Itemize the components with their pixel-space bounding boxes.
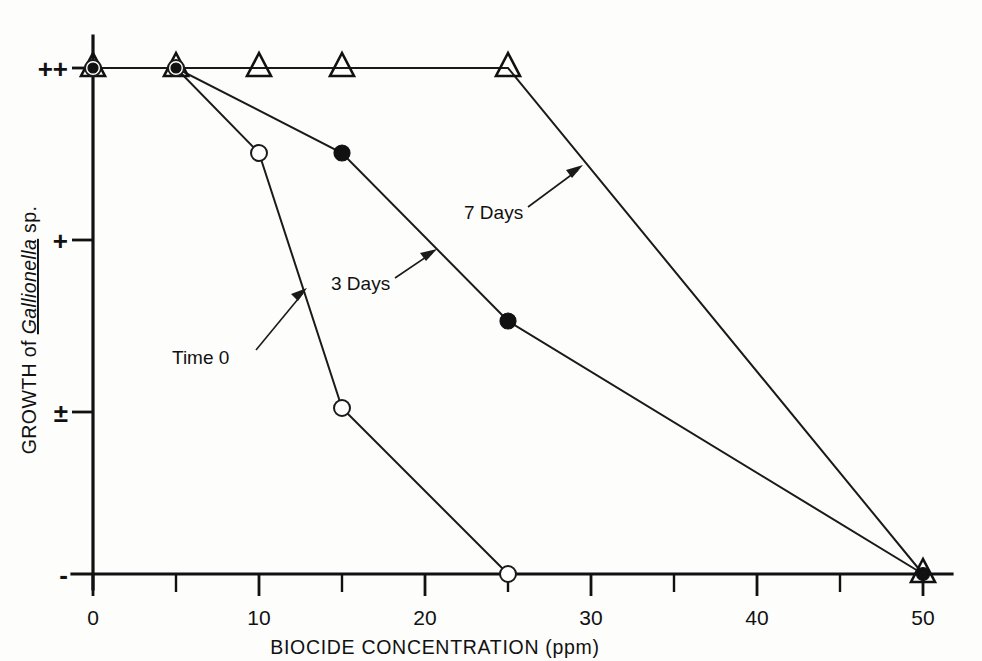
y-axis-title-prefix: GROWTH of [18, 334, 40, 454]
growth-vs-biocide-chart: 0 10 20 30 40 50 BIOCIDE CONCENTRATION (… [0, 0, 982, 661]
marker-cluster-dot-50ppm [918, 569, 928, 579]
marker-triangle-25ppm [496, 53, 520, 76]
y-tick-label-minus: - [59, 560, 68, 590]
marker-triangle-15ppm [330, 53, 354, 76]
y-tick-label-plusminus: ± [54, 398, 68, 428]
marker-open-circle-15ppm [334, 400, 350, 416]
y-axis-tick-labels: ++ + ± - [38, 54, 68, 590]
marker-cluster-dot-0ppm [88, 63, 98, 73]
x-axis-tick-labels: 0 10 20 30 40 50 [87, 606, 935, 629]
annotation-7-days: 7 Days [464, 165, 583, 223]
marker-filled-circle-25ppm [500, 313, 516, 329]
annotation-time-0-label: Time 0 [172, 347, 229, 368]
x-tick-label-40: 40 [745, 606, 768, 629]
annotation-7-days-label: 7 Days [464, 202, 523, 223]
marker-triangle-10ppm [247, 53, 271, 76]
annotation-3-days-label: 3 Days [331, 273, 390, 294]
annotation-3-days: 3 Days [331, 249, 437, 294]
series-markers-3-days [87, 62, 930, 581]
y-tick-label-plus: + [53, 226, 68, 256]
axes-group [72, 36, 952, 589]
x-tick-label-0: 0 [87, 606, 99, 629]
marker-open-circle-10ppm [251, 145, 267, 161]
series-markers-time-0 [85, 60, 516, 582]
series-line-time-0 [93, 68, 508, 574]
x-tick-label-10: 10 [247, 606, 270, 629]
marker-cluster-dot-5ppm [171, 63, 181, 73]
figure-container: 0 10 20 30 40 50 BIOCIDE CONCENTRATION (… [0, 0, 982, 661]
x-tick-label-50: 50 [911, 606, 934, 629]
annotation-time-0: Time 0 [172, 288, 307, 368]
x-tick-label-20: 20 [413, 606, 436, 629]
y-axis-title-group: GROWTH of Gallionella sp. [18, 206, 40, 454]
x-axis-title: BIOCIDE CONCENTRATION (ppm) [270, 636, 599, 658]
y-axis-title-genus: Gallionella [18, 239, 40, 334]
marker-open-circle-25ppm [500, 566, 516, 582]
y-tick-label-plusplus: ++ [38, 54, 68, 84]
y-axis-title: GROWTH of Gallionella sp. [18, 206, 40, 454]
y-axis-title-suffix: sp. [18, 206, 40, 239]
y-axis-ticks [72, 68, 93, 412]
x-tick-label-30: 30 [579, 606, 602, 629]
annotation-time-0-leader [256, 293, 303, 350]
marker-filled-circle-15ppm [334, 145, 350, 161]
